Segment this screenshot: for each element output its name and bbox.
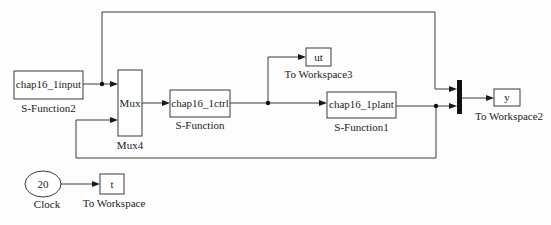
diagram-svg: chap16_1input S-Function2 Mux Mux4 chap1… (0, 0, 551, 225)
s-function-label: chap16_1ctrl (171, 97, 228, 109)
s-function1-label: chap16_1plant (329, 98, 394, 110)
to-workspace-label: t (110, 178, 113, 190)
block-mux-bar[interactable] (457, 80, 462, 114)
block-mux4[interactable]: Mux Mux4 (117, 70, 144, 151)
arrow-ut-in (298, 54, 306, 60)
s-function1-caption: S-Function1 (334, 121, 388, 133)
block-clock[interactable]: 20 Clock (25, 171, 61, 210)
arrow-plant-in (319, 100, 327, 106)
arrow-bus-in2 (449, 103, 457, 109)
block-to-workspace[interactable]: t To Workspace (83, 174, 146, 209)
to-workspace2-label: y (504, 91, 510, 103)
to-workspace2-caption: To Workspace2 (475, 110, 543, 122)
junction-ctrl (266, 101, 270, 105)
mux4-caption: Mux4 (117, 139, 144, 151)
block-to-workspace3[interactable]: ut To Workspace3 (284, 48, 353, 80)
block-s-function[interactable]: chap16_1ctrl S-Function (170, 90, 230, 131)
arrow-y-in (486, 95, 494, 101)
mux4-label: Mux (120, 97, 141, 109)
arrow-ctrl-in (162, 100, 170, 106)
wire-ctrl-to-ut (268, 57, 304, 103)
simulink-canvas: chap16_1input S-Function2 Mux Mux4 chap1… (0, 0, 551, 225)
block-s-function2[interactable]: chap16_1input S-Function2 (14, 71, 83, 114)
block-s-function1[interactable]: chap16_1plant S-Function1 (327, 92, 396, 133)
arrow-mux4-in1 (110, 81, 118, 87)
s-function2-caption: S-Function2 (21, 102, 75, 114)
block-to-workspace2[interactable]: y To Workspace2 (475, 89, 543, 122)
s-function-caption: S-Function (176, 119, 225, 131)
clock-label: 20 (38, 178, 50, 190)
wire-top-branch (102, 12, 455, 89)
arrow-bus-in1 (449, 86, 457, 92)
junction-input (100, 82, 104, 86)
arrow-t-in (92, 181, 100, 187)
junction-plant (434, 104, 438, 108)
clock-caption: Clock (34, 198, 61, 210)
to-workspace3-caption: To Workspace3 (284, 68, 353, 80)
to-workspace-caption: To Workspace (83, 197, 146, 209)
arrow-mux4-in2 (110, 117, 118, 123)
s-function2-label: chap16_1input (16, 78, 81, 90)
to-workspace3-label: ut (314, 51, 323, 63)
